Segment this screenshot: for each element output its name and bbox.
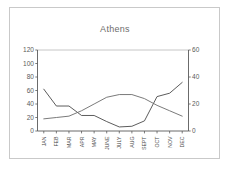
svg-text:0: 0 xyxy=(30,127,34,134)
svg-text:DEC: DEC xyxy=(179,136,185,147)
svg-text:MAR: MAR xyxy=(66,136,72,148)
chart-screenshot: Athens 020406080100120 0204060 JANFEBMAR… xyxy=(0,0,230,170)
svg-text:120: 120 xyxy=(23,46,34,53)
svg-text:AUG: AUG xyxy=(129,137,135,148)
svg-text:APR: APR xyxy=(79,136,85,147)
svg-text:20: 20 xyxy=(192,100,200,107)
series-line-precipitation xyxy=(44,82,182,127)
svg-text:JAN: JAN xyxy=(41,136,47,146)
data-series-group xyxy=(44,82,182,127)
svg-text:0: 0 xyxy=(192,127,196,134)
svg-text:SEPT: SEPT xyxy=(141,136,147,150)
x-axis: JANFEBMARAPRMAYJUNEJULYAUGSEPTOCTNOVDEC xyxy=(38,131,189,150)
chart-plot-area: 020406080100120 0204060 JANFEBMARAPRMAYJ… xyxy=(0,0,230,170)
svg-text:100: 100 xyxy=(23,60,34,67)
svg-text:60: 60 xyxy=(192,46,200,53)
left-axis: 020406080100120 xyxy=(23,46,37,134)
svg-text:JULY: JULY xyxy=(116,136,122,149)
svg-text:NOV: NOV xyxy=(167,136,173,148)
svg-text:20: 20 xyxy=(27,114,35,121)
svg-text:60: 60 xyxy=(27,87,35,94)
svg-text:80: 80 xyxy=(27,73,35,80)
svg-text:FEB: FEB xyxy=(53,136,59,147)
svg-text:MAY: MAY xyxy=(91,136,97,147)
right-axis: 0204060 xyxy=(189,46,200,134)
series-line-temperature xyxy=(44,95,182,119)
svg-text:40: 40 xyxy=(192,73,200,80)
svg-text:JUNE: JUNE xyxy=(104,136,110,150)
svg-text:40: 40 xyxy=(27,100,35,107)
svg-text:OCT: OCT xyxy=(154,136,160,148)
